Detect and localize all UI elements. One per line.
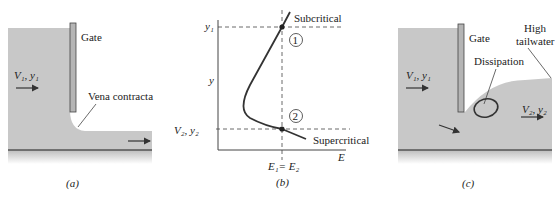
panel-a: Gate V₁, y₁ Vena contracta (a) xyxy=(8,23,153,190)
energy-label: E₁= E₂ xyxy=(267,160,299,172)
point-1-label: 1 xyxy=(293,34,299,46)
sluice-gate-a xyxy=(70,23,76,112)
tailwater-leader xyxy=(528,48,551,78)
gate-label-a: Gate xyxy=(81,31,102,43)
caption-b: (b) xyxy=(276,176,289,189)
tailwater-label-2: tailwater xyxy=(516,35,555,47)
y1-label-b: y₁ xyxy=(204,20,214,32)
vena-contracta-label: Vena contracta xyxy=(88,90,153,102)
supercritical-label: Supercritical xyxy=(313,134,369,146)
subcritical-label: Subcritical xyxy=(294,12,342,24)
point-1-dot xyxy=(279,24,284,29)
x-axis-label: E xyxy=(337,151,345,163)
tailwater-label-1: High xyxy=(524,22,547,34)
vena-contracta-leader xyxy=(78,104,96,127)
gate-label-c: Gate xyxy=(469,32,490,44)
sluice-gate-c xyxy=(458,24,464,112)
upstream-label-c: V₁, y₁ xyxy=(406,69,431,81)
bed-fade-c xyxy=(398,150,552,164)
caption-c: (c) xyxy=(462,177,475,190)
y2-label-b: V₂, y₂ xyxy=(174,124,199,136)
point-2-label: 2 xyxy=(293,110,299,122)
downstream-label-c: V₂, y₂ xyxy=(522,103,547,115)
hydraulic-jump-figure: Gate V₁, y₁ Vena contracta (a) V₂, y₂ y₁… xyxy=(0,0,558,199)
point-2-dot xyxy=(279,126,284,131)
panel-b: V₂, y₂ y₁ y 1 2 Subcritical Supercritica… xyxy=(174,10,369,189)
bed-fade-a xyxy=(8,150,152,164)
y-axis-label: y xyxy=(208,74,214,86)
caption-a: (a) xyxy=(66,177,79,190)
water-region-a xyxy=(8,28,152,150)
dissipation-label: Dissipation xyxy=(474,55,525,67)
upstream-label-a: V₁, y₁ xyxy=(14,69,39,81)
panel-c: Gate High tailwater Dissipation V₁, y₁ V… xyxy=(398,22,555,190)
